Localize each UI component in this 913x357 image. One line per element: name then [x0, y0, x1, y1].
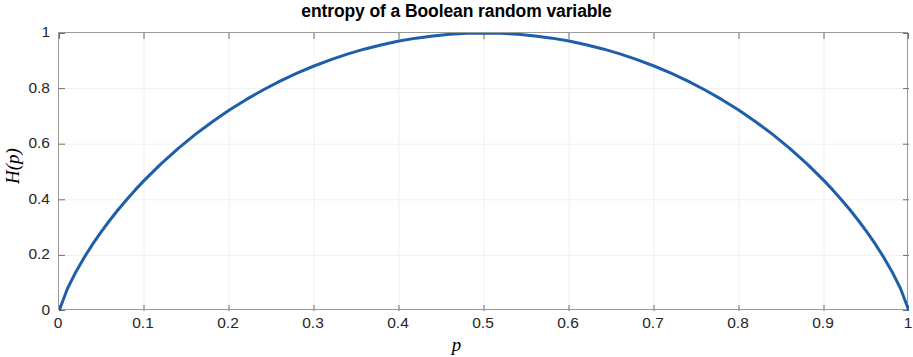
y-tick-label: 1: [41, 23, 50, 41]
plot-svg: [59, 33, 909, 311]
x-tick-label: 0.1: [132, 314, 154, 332]
page-title: entropy of a Boolean random variable: [0, 1, 913, 22]
y-tick-label: 0.4: [28, 190, 50, 208]
y-tick-label: 0.6: [28, 134, 50, 152]
y-tick-label: 0.8: [28, 79, 50, 97]
x-tick-label: 0.5: [472, 314, 494, 332]
plot-area: [58, 32, 908, 310]
x-tick-label: 0.9: [812, 314, 834, 332]
x-tick-label: 0.2: [217, 314, 239, 332]
x-axis-label: p: [0, 334, 913, 356]
y-axis-label: H(p): [2, 111, 24, 221]
x-tick-label: 0.8: [727, 314, 749, 332]
x-tick-label: 0.6: [557, 314, 579, 332]
x-tick-label: 0: [54, 314, 63, 332]
x-tick-label: 0.3: [302, 314, 324, 332]
x-tick-label: 0.7: [642, 314, 664, 332]
x-tick-label: 0.4: [387, 314, 409, 332]
figure-canvas: entropy of a Boolean random variable 00.…: [0, 0, 913, 357]
y-tick-label: 0: [41, 301, 50, 319]
x-tick-label: 1: [904, 314, 913, 332]
y-tick-label: 0.2: [28, 245, 50, 263]
gridlines: [59, 33, 909, 311]
